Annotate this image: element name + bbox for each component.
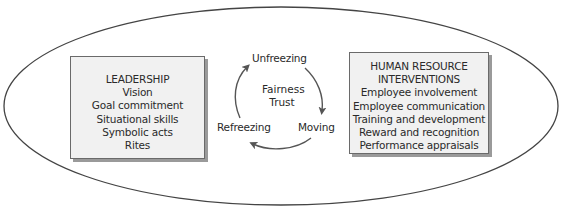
arrow-refreezing-to-unfreezing xyxy=(235,67,247,118)
hr-title-line1: HUMAN RESOURCE xyxy=(350,60,488,73)
center-fairness: Fairness xyxy=(262,83,302,96)
leadership-item: Vision xyxy=(71,86,204,99)
leadership-item: Symbolic acts xyxy=(71,126,204,139)
leadership-item: Goal commitment xyxy=(71,99,204,112)
stage-refreezing: Refreezing xyxy=(217,121,271,133)
hr-item: Reward and recognition xyxy=(350,126,488,139)
hr-item: Performance appraisals xyxy=(350,139,488,152)
hr-item: Employee involvement xyxy=(350,86,488,99)
hr-item: Employee communication xyxy=(350,100,488,113)
hr-title-line2: INTERVENTIONS xyxy=(350,73,488,86)
leadership-item: Situational skills xyxy=(71,113,204,126)
hr-item: Training and development xyxy=(350,113,488,126)
arrow-unfreezing-to-moving xyxy=(305,68,322,111)
leadership-item: Rites xyxy=(71,139,204,152)
stage-moving: Moving xyxy=(298,121,335,133)
leadership-title: LEADERSHIP xyxy=(71,73,204,86)
cycle-center: Fairness Trust xyxy=(262,83,302,109)
center-trust: Trust xyxy=(262,96,302,109)
hr-interventions-box: HUMAN RESOURCE INTERVENTIONS Employee in… xyxy=(349,52,489,154)
arrow-moving-to-refreezing xyxy=(253,138,311,149)
stage-unfreezing: Unfreezing xyxy=(252,52,307,64)
leadership-box: LEADERSHIP Vision Goal commitment Situat… xyxy=(70,56,205,159)
